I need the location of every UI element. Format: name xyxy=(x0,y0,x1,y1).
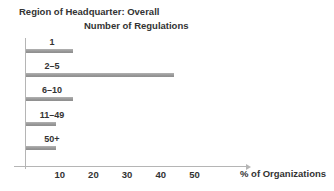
x-tick-label: 30 xyxy=(114,169,140,180)
bar xyxy=(26,73,174,77)
chart-title: Number of Regulations xyxy=(84,20,189,31)
category-label: 2–5 xyxy=(26,61,78,71)
category-label: 50+ xyxy=(26,134,78,144)
category-label: 6–10 xyxy=(26,85,78,95)
bar-chart: Region of Headquarter: Overall Number of… xyxy=(0,0,334,191)
chart-heading: Region of Headquarter: Overall xyxy=(19,6,159,17)
bar xyxy=(26,146,56,150)
bar xyxy=(26,49,73,53)
bar xyxy=(26,97,73,101)
x-tick-label: 50 xyxy=(182,169,208,180)
x-axis-label: % of Organizations xyxy=(240,168,326,179)
x-axis-line xyxy=(14,166,246,167)
category-label: 1 xyxy=(26,37,78,47)
x-tick-label: 10 xyxy=(47,169,73,180)
category-label: 11–49 xyxy=(26,110,78,120)
x-tick-label: 20 xyxy=(80,169,106,180)
bar xyxy=(26,122,56,126)
x-tick-label: 40 xyxy=(148,169,174,180)
